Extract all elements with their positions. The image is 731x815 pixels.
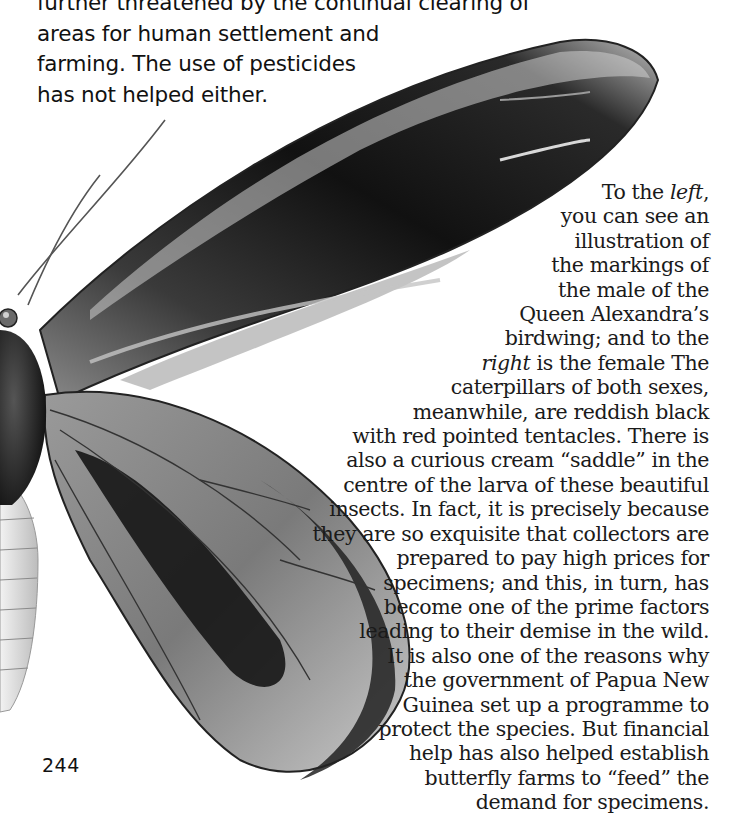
body-line: also a curious cream “saddle” in the <box>313 448 709 472</box>
body-line: It is also one of the reasons why <box>313 644 709 668</box>
body-line: caterpillars of both sexes, <box>313 375 709 399</box>
body-line: the markings of <box>313 253 709 277</box>
intro-paragraph: further threatened by the continual clea… <box>37 0 377 110</box>
body-line: butterfly farms to “feed” the <box>313 766 709 790</box>
body-line: they are so exquisite that collectors ar… <box>313 522 709 546</box>
body-line: help has also helped establish <box>313 741 709 765</box>
body-line: you can see an <box>313 204 709 228</box>
body-line: insects. In fact, it is precisely becaus… <box>313 497 709 521</box>
body-line: To the left, <box>313 180 709 204</box>
body-line: with red pointed tentacles. There is <box>313 424 709 448</box>
body-line: leading to their demise in the wild. <box>313 619 709 643</box>
body-line: become one of the prime factors <box>313 595 709 619</box>
body-line: prepared to pay high prices for <box>313 546 709 570</box>
body-line: illustration of <box>313 229 709 253</box>
body-line: right is the female The <box>313 351 709 375</box>
body-line: centre of the larva of these beautiful <box>313 473 709 497</box>
intro-line: further threatened by the continual clea… <box>37 0 377 19</box>
body-line: specimens; and this, in turn, has <box>313 571 709 595</box>
body-paragraph: To the left, you can see an illustration… <box>313 180 709 815</box>
body-line: the government of Papua New <box>313 668 709 692</box>
body-line: demand for specimens. <box>313 790 709 814</box>
body-line: birdwing; and to the <box>313 326 709 350</box>
intro-line: farming. The use of pesticides <box>37 49 377 80</box>
body-line: meanwhile, are reddish black <box>313 400 709 424</box>
body-line: the male of the <box>313 278 709 302</box>
intro-line: areas for human settlement and <box>37 19 377 50</box>
body-line: Queen Alexandra’s <box>313 302 709 326</box>
butterfly-body <box>0 309 46 712</box>
body-line: Guinea set up a programme to <box>313 693 709 717</box>
page-number: 244 <box>42 754 80 776</box>
body-line: protect the species. But financial <box>313 717 709 741</box>
intro-line: has not helped either. <box>37 80 377 111</box>
